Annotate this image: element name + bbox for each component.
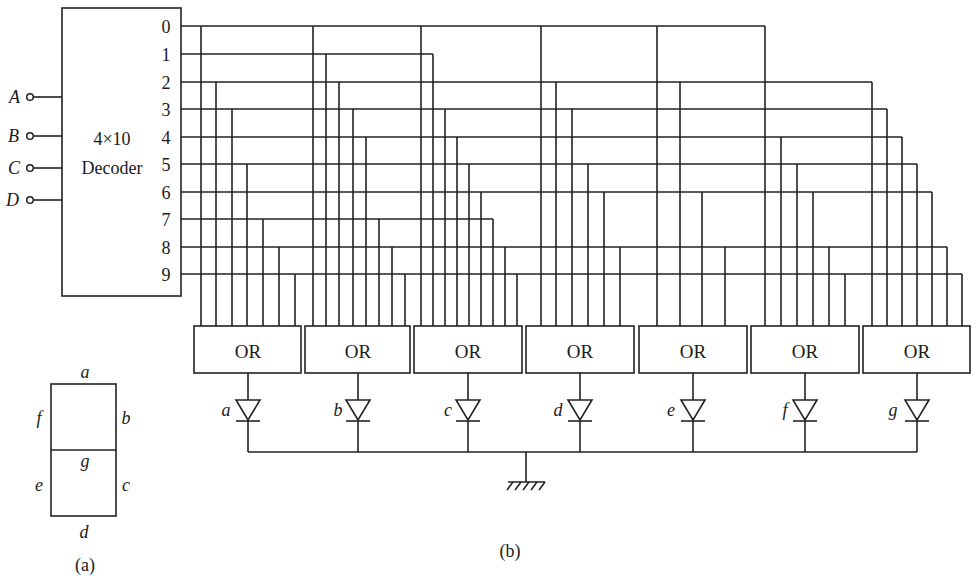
or-gate-e: ORe	[639, 326, 747, 452]
segment-label-c: c	[122, 475, 130, 495]
segment-label-a: a	[81, 362, 90, 382]
diode-icon	[236, 400, 260, 421]
output-label-0: 0	[162, 17, 171, 37]
decoder-input-C: C	[8, 158, 62, 178]
input-terminal-icon	[27, 94, 34, 101]
segment-label-g: g	[81, 451, 90, 471]
output-label-3: 3	[162, 100, 171, 120]
or-gate-c: ORc	[414, 326, 522, 452]
diode-icon	[681, 400, 705, 421]
segment-label-b: b	[122, 408, 131, 428]
diode-label-b: b	[334, 400, 343, 420]
decoder-output-wiring	[181, 26, 962, 326]
diode-icon	[346, 400, 370, 421]
decoder-subtitle: Decoder	[82, 158, 143, 178]
or-gate-label: OR	[567, 341, 594, 362]
segment-label-d: d	[80, 522, 90, 542]
output-label-1: 1	[162, 45, 171, 65]
input-terminal-icon	[27, 165, 34, 172]
or-gate-label: OR	[680, 341, 707, 362]
input-label-C: C	[8, 158, 21, 178]
caption-b: (b)	[500, 541, 521, 562]
or-gate-row: ORaORbORcORdOReORfORg	[194, 326, 970, 452]
or-gate-d: ORd	[526, 326, 634, 452]
ground-icon	[507, 452, 545, 490]
diode-label-g: g	[889, 400, 898, 420]
input-label-A: A	[8, 87, 21, 107]
diode-icon	[905, 400, 929, 421]
diode-label-c: c	[444, 400, 452, 420]
diode-label-d: d	[554, 400, 564, 420]
output-label-9: 9	[162, 265, 171, 285]
segment-label-e: e	[35, 475, 43, 495]
or-gate-label: OR	[792, 341, 819, 362]
decoder: 4×10 Decoder A B C D 0 1 2 3 4 5 6	[5, 8, 181, 296]
input-label-B: B	[8, 126, 19, 146]
input-terminal-icon	[27, 133, 34, 140]
or-gate-a: ORa	[194, 326, 301, 452]
output-label-6: 6	[162, 183, 171, 203]
or-gate-label: OR	[345, 341, 372, 362]
caption-a: (a)	[75, 555, 95, 576]
diode-label-e: e	[667, 400, 675, 420]
output-label-8: 8	[162, 238, 171, 258]
or-gate-g: ORg	[863, 326, 970, 452]
decoder-input-A: A	[8, 87, 62, 107]
decoder-input-D: D	[5, 190, 62, 210]
diode-icon	[568, 400, 592, 421]
seven-segment-display: a b c d e f g (a)	[35, 362, 131, 576]
output-label-7: 7	[162, 210, 171, 230]
diode-icon	[456, 400, 480, 421]
output-label-5: 5	[162, 155, 171, 175]
input-terminal-icon	[27, 197, 34, 204]
decoder-title: 4×10	[93, 129, 130, 149]
diode-label-f: f	[782, 400, 790, 420]
decoder-input-B: B	[8, 126, 62, 146]
decoder-seven-segment-diagram: a b c d e f g (a) 4×10 Decoder A B C D	[0, 0, 977, 582]
segment-label-f: f	[36, 408, 44, 428]
diode-label-a: a	[222, 400, 231, 420]
output-label-2: 2	[162, 73, 171, 93]
output-label-4: 4	[162, 128, 171, 148]
or-gate-f: ORf	[751, 326, 859, 452]
or-gate-label: OR	[904, 341, 931, 362]
input-label-D: D	[5, 190, 19, 210]
or-gate-label: OR	[455, 341, 482, 362]
or-gate-label: OR	[235, 341, 262, 362]
diode-icon	[793, 400, 817, 421]
or-gate-b: ORb	[305, 326, 410, 452]
